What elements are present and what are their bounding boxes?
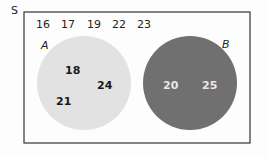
outside-element: 17 xyxy=(61,18,75,31)
set-b-label: B xyxy=(222,38,230,51)
set-b-element: 25 xyxy=(202,79,217,92)
venn-diagram: S 16 17 19 22 23 A 18 24 21 B 20 25 xyxy=(0,0,268,157)
set-a-label: A xyxy=(40,39,49,52)
outside-element: 19 xyxy=(87,18,101,31)
outside-element: 23 xyxy=(137,18,151,31)
universal-set-label: S xyxy=(11,4,18,17)
set-a-element: 18 xyxy=(65,64,80,77)
outside-element: 16 xyxy=(36,18,50,31)
set-a-element: 21 xyxy=(56,95,71,108)
set-a-element: 24 xyxy=(97,79,113,92)
outside-element: 22 xyxy=(112,18,126,31)
set-a-circle xyxy=(37,36,131,130)
set-b-element: 20 xyxy=(163,79,179,92)
